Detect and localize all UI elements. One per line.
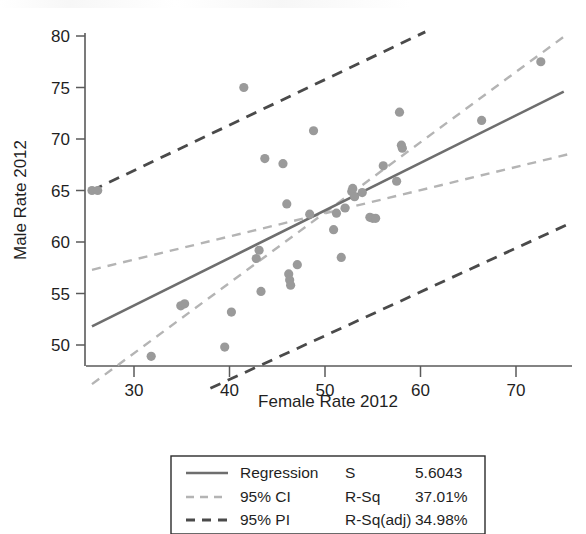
y-tick-label: 70	[51, 130, 70, 149]
data-point	[227, 307, 236, 316]
y-tick-label: 55	[51, 285, 70, 304]
data-point	[286, 281, 295, 290]
data-point	[332, 209, 341, 218]
data-point	[395, 108, 404, 117]
data-point	[293, 260, 302, 269]
legend-stat-value: 5.6043	[415, 464, 462, 481]
legend: RegressionS5.604395% CIR-Sq37.01%95% PIR…	[171, 456, 485, 534]
y-axis-title: Male Rate 2012	[11, 140, 30, 260]
data-point	[93, 186, 102, 195]
legend-series-label: 95% CI	[240, 488, 291, 505]
data-point	[147, 352, 156, 361]
x-axis-ticks	[134, 366, 516, 377]
x-tick-label: 60	[411, 381, 430, 400]
regression-line	[92, 92, 564, 327]
data-point	[305, 210, 314, 219]
axes-group	[85, 33, 572, 366]
data-point	[309, 126, 318, 135]
data-point	[371, 214, 380, 223]
chart-canvas: 50556065707580 3040506070 Female Rate 20…	[0, 0, 586, 534]
x-tick-label: 40	[220, 381, 239, 400]
data-point	[255, 246, 264, 255]
y-tick-label: 80	[51, 27, 70, 46]
scatter-plot-figure: 50556065707580 3040506070 Female Rate 20…	[0, 0, 586, 534]
y-axis-ticks	[76, 36, 85, 345]
x-axis-title: Female Rate 2012	[258, 392, 398, 411]
y-tick-label: 50	[51, 336, 70, 355]
band-lines-group	[92, 32, 568, 388]
pi-lower-line	[210, 224, 567, 388]
data-point	[252, 254, 261, 263]
legend-stat-name: R-Sq(adj)	[345, 511, 411, 528]
legend-series-label: Regression	[240, 464, 318, 481]
data-point	[358, 188, 367, 197]
data-point	[392, 177, 401, 186]
data-point	[398, 144, 407, 153]
data-point	[260, 154, 269, 163]
legend-stat-name: S	[345, 464, 355, 481]
data-point	[340, 203, 349, 212]
y-axis-tick-labels: 50556065707580	[51, 27, 70, 355]
y-tick-label: 60	[51, 233, 70, 252]
data-point	[278, 159, 287, 168]
data-point	[348, 184, 357, 193]
legend-stat-name: R-Sq	[345, 488, 380, 505]
data-points-group	[87, 57, 545, 361]
data-point	[329, 225, 338, 234]
legend-rows: RegressionS5.604395% CIR-Sq37.01%95% PIR…	[186, 464, 468, 528]
data-point	[536, 57, 545, 66]
x-tick-label: 30	[125, 381, 144, 400]
x-tick-label: 70	[507, 381, 526, 400]
data-point	[337, 253, 346, 262]
data-point	[256, 287, 265, 296]
data-point	[282, 199, 291, 208]
data-point	[180, 299, 189, 308]
legend-stat-value: 37.01%	[415, 488, 468, 505]
data-point	[477, 116, 486, 125]
y-tick-label: 65	[51, 182, 70, 201]
ci-upper-line	[92, 154, 568, 269]
legend-stat-value: 34.98%	[415, 511, 468, 528]
data-point	[239, 83, 248, 92]
data-point	[379, 161, 388, 170]
data-point	[220, 342, 229, 351]
pi-upper-line	[92, 32, 425, 191]
legend-series-label: 95% PI	[240, 511, 290, 528]
y-tick-label: 75	[51, 79, 70, 98]
